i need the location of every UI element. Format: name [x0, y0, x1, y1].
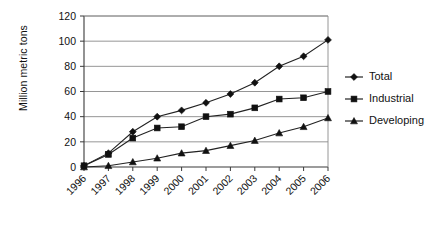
y-tick-label: 80 — [64, 60, 76, 72]
legend-marker-diamond-icon — [351, 74, 358, 81]
data-point — [301, 95, 307, 101]
y-tick-label: 0 — [70, 161, 76, 173]
x-tick-label: 1999 — [137, 172, 162, 197]
legend-item-industrial[interactable]: Industrial — [345, 92, 414, 104]
tickmarks-group — [80, 16, 328, 171]
data-point — [203, 99, 210, 106]
data-point — [325, 89, 331, 95]
x-tick-label: 2005 — [283, 172, 308, 197]
y-tick-labels-group: 020406080100120 — [58, 10, 76, 173]
data-point — [252, 105, 258, 111]
x-tick-label: 2006 — [307, 172, 332, 197]
x-tick-label: 2002 — [210, 172, 235, 197]
x-tick-label: 2000 — [161, 172, 186, 197]
y-tick-label: 120 — [58, 10, 76, 22]
data-point — [105, 152, 111, 158]
x-tick-label: 1998 — [112, 172, 137, 197]
legend-item-developing[interactable]: Developing — [345, 114, 424, 126]
data-point — [154, 113, 161, 120]
data-point — [300, 53, 307, 60]
data-point — [276, 96, 282, 102]
x-tick-label: 2004 — [259, 172, 284, 197]
data-point — [276, 63, 283, 70]
legend-label: Total — [369, 70, 392, 82]
data-point — [154, 125, 160, 131]
legend-marker-square-icon — [351, 96, 357, 102]
gridlines-group — [84, 16, 328, 142]
chart-plot-area: 020406080100120 199619971998199920002001… — [0, 0, 434, 231]
legend-label: Industrial — [369, 92, 414, 104]
y-tick-label: 60 — [64, 85, 76, 97]
x-tick-label: 2003 — [234, 172, 259, 197]
y-tick-label: 100 — [58, 35, 76, 47]
legend-item-total[interactable]: Total — [345, 70, 392, 82]
y-tick-label: 40 — [64, 110, 76, 122]
x-tick-label: 2001 — [185, 172, 210, 197]
line-chart: Million metric tons 020406080100120 1996… — [0, 0, 434, 231]
data-point — [251, 79, 258, 86]
y-tick-label: 20 — [64, 136, 76, 148]
data-series-group — [81, 36, 332, 169]
x-tick-label: 1996 — [63, 172, 88, 197]
chart-legend: TotalIndustrialDeveloping — [345, 70, 424, 126]
data-point — [325, 114, 332, 120]
legend-label: Developing — [369, 114, 424, 126]
data-point — [178, 107, 185, 114]
x-tick-labels-group: 1996199719981999200020012002200320042005… — [63, 172, 332, 197]
x-tick-label: 1997 — [88, 172, 113, 197]
data-point — [179, 124, 185, 130]
data-point — [130, 135, 136, 141]
data-point — [203, 114, 209, 120]
data-point — [325, 36, 332, 43]
data-point — [227, 111, 233, 117]
